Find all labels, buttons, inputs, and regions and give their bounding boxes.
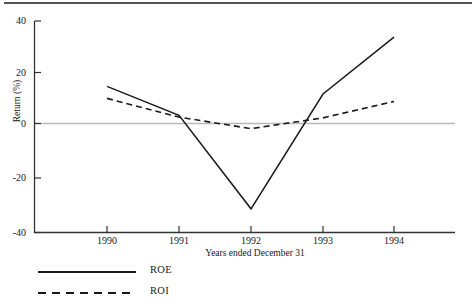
y-tick-label-neg20: -20 [0, 173, 26, 183]
chart-figure: 40 20 0 -20 -40 Return (%) 1990 1991 199… [0, 0, 476, 308]
x-tick-label-1992: 1992 [229, 236, 273, 246]
legend-label-roi: ROI [150, 285, 169, 296]
x-axis-ticks [107, 226, 394, 233]
y-axis-ticks [35, 21, 42, 233]
y-tick-label-neg40: -40 [0, 228, 26, 238]
y-axis-title: Return (%) [12, 61, 22, 141]
chart-legend: ROE ROI [38, 262, 278, 304]
legend-item-roe: ROE [38, 262, 278, 283]
legend-item-roi: ROI [38, 283, 278, 304]
x-tick-label-1994: 1994 [372, 236, 416, 246]
legend-swatch-dashed-line [38, 292, 136, 294]
x-axis-title: Years ended December 31 [120, 248, 390, 258]
legend-swatch-solid-line [38, 271, 136, 273]
x-tick-label-1991: 1991 [157, 236, 201, 246]
y-tick-label-40: 40 [0, 16, 26, 26]
x-tick-label-1990: 1990 [85, 236, 129, 246]
legend-label-roe: ROE [150, 264, 172, 275]
x-tick-label-1993: 1993 [301, 236, 345, 246]
